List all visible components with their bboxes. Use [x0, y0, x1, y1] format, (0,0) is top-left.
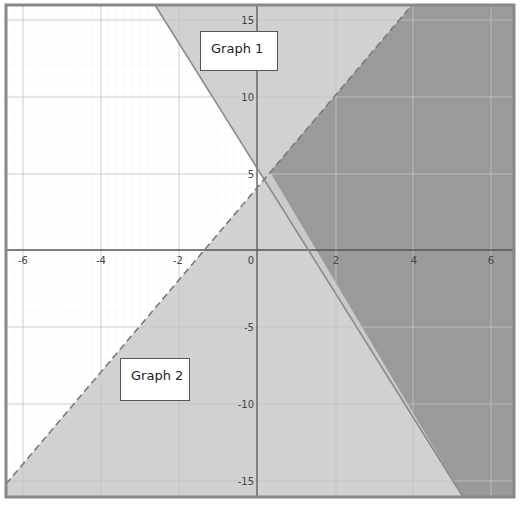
y-tick: -5 — [244, 322, 254, 333]
graph2-label: Graph 2 — [120, 358, 190, 401]
x-tick: -2 — [173, 255, 183, 266]
y-tick: -15 — [238, 476, 254, 487]
y-tick: 15 — [241, 15, 254, 26]
x-tick: -6 — [18, 255, 28, 266]
y-tick: 10 — [241, 92, 254, 103]
x-tick: 4 — [411, 255, 417, 266]
x-tick: 2 — [333, 255, 339, 266]
inequality-graph: -6 -4 -2 0 2 4 6 15 10 5 -5 -10 -15 — [0, 0, 524, 505]
x-tick: -4 — [96, 255, 106, 266]
y-tick: 5 — [248, 169, 254, 180]
x-tick: 6 — [488, 255, 494, 266]
graph1-label: Graph 1 — [200, 31, 278, 71]
y-tick: -10 — [238, 399, 254, 410]
x-tick: 0 — [248, 255, 254, 266]
